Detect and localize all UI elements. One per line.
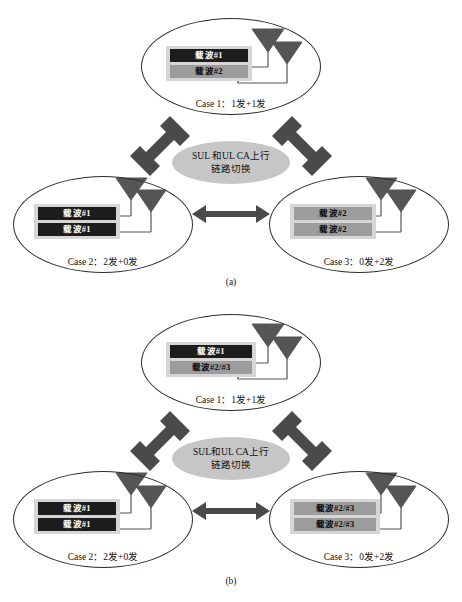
carrier-bar[interactable]: 载波#2	[294, 223, 372, 236]
hub-line-2: 链路切换	[211, 163, 251, 176]
hub-ellipse[interactable]: SUL 和UL CA上行 链路切换	[172, 141, 290, 184]
case-group-3[interactable]: 载波#2 载波#2 Case 3：0发+2发	[269, 176, 449, 273]
panel-b: 载波#1 载波#2/#3 Case 1：1发+1发 载波#1 载波#1 Case…	[0, 301, 462, 602]
hub-ellipse[interactable]: SUL和UL CA上行 链路切换	[172, 437, 290, 480]
carrier-bar[interactable]: 载波#1	[38, 223, 116, 236]
case-label: Case 2：2发+0发	[13, 549, 193, 563]
carrier-bar[interactable]: 载波#2	[170, 65, 248, 78]
case-label: Case 3：0发+2发	[269, 254, 449, 268]
carrier-bar[interactable]: 载波#1	[170, 49, 248, 62]
case-group-2[interactable]: 载波#1 载波#1 Case 2：2发+0发	[13, 176, 193, 273]
carrier-bar[interactable]: 载波#1	[38, 207, 116, 220]
hub-line-1: SUL 和UL CA上行	[192, 150, 270, 163]
case-label: Case 1：1发+1发	[141, 96, 321, 110]
carrier-bar-panel: 载波#2/#3 载波#2/#3	[290, 499, 380, 534]
carrier-bar[interactable]: 载波#2/#3	[294, 502, 376, 515]
carrier-bar[interactable]: 载波#2/#3	[294, 518, 376, 531]
carrier-bar[interactable]: 载波#1	[170, 345, 252, 358]
case-group-1[interactable]: 载波#1 载波#2 Case 1：1发+1发	[141, 18, 321, 115]
carrier-bar[interactable]: 载波#1	[38, 502, 116, 515]
hub-line-2: 链路切换	[211, 459, 251, 472]
carrier-bar-panel: 载波#1 载波#2	[166, 46, 252, 81]
case-group-1[interactable]: 载波#1 载波#2/#3 Case 1：1发+1发	[141, 314, 321, 411]
case-label: Case 2：2发+0发	[13, 254, 193, 268]
panel-a: 载波#1 载波#2 Case 1：1发+1发 载波#1 载波#1 Case 2：…	[0, 0, 462, 301]
case-group-2[interactable]: 载波#1 载波#1 Case 2：2发+0发	[13, 471, 193, 568]
carrier-bar[interactable]: 载波#1	[38, 518, 116, 531]
carrier-bar[interactable]: 载波#2	[294, 207, 372, 220]
case-label: Case 1：1发+1发	[141, 392, 321, 406]
carrier-bar[interactable]: 载波#2/#3	[170, 361, 252, 374]
panel-caption: (b)	[0, 576, 462, 586]
panel-caption: (a)	[0, 277, 462, 287]
double-arrow-bottom	[192, 205, 270, 223]
carrier-bar-panel: 载波#1 载波#2/#3	[166, 342, 256, 377]
carrier-bar-panel: 载波#1 载波#1	[34, 204, 120, 239]
case-group-3[interactable]: 载波#2/#3 载波#2/#3 Case 3：0发+2发	[269, 471, 449, 568]
carrier-bar-panel: 载波#2 载波#2	[290, 204, 376, 239]
hub-line-1: SUL和UL CA上行	[193, 446, 269, 459]
double-arrow-bottom	[192, 502, 270, 520]
figure-root: 载波#1 载波#2 Case 1：1发+1发 载波#1 载波#1 Case 2：…	[0, 0, 462, 602]
case-label: Case 3：0发+2发	[269, 549, 449, 563]
carrier-bar-panel: 载波#1 载波#1	[34, 499, 120, 534]
